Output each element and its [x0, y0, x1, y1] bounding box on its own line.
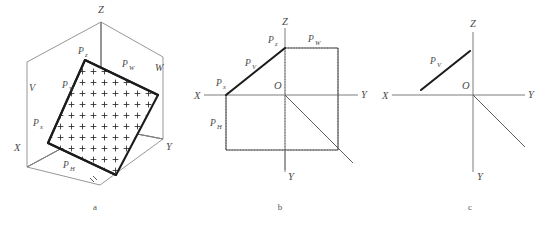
axis-label-x: X [13, 142, 21, 153]
construction-lines-b [226, 48, 338, 150]
trace-label-ph-sub: H [216, 123, 223, 130]
trace-label-pz-sub: z [84, 51, 88, 58]
panel-caption-a: a [93, 202, 97, 212]
edge-tick-marks [90, 176, 97, 182]
trace-label-pz: P z [267, 35, 278, 47]
plane-label-w: W [155, 62, 165, 73]
trace-label-px: P x [215, 78, 226, 90]
axis-label-z: Z [98, 4, 104, 15]
y-axis-bisector-line [473, 95, 525, 147]
trace-label-ph: P H [209, 118, 223, 130]
axis-label-y-bottom: Y [477, 171, 484, 182]
trace-label-pz-sub: z [274, 40, 278, 47]
trace-label-pv-sub: V [437, 61, 442, 68]
trace-label-pv-base: P [244, 58, 251, 68]
axis-label-y-right: Y [361, 89, 368, 100]
trace-lines-b [226, 48, 338, 150]
y-axis-bisector-line [285, 95, 353, 163]
trace-label-ph-base: P [62, 160, 69, 170]
trace-label-px-sub: x [222, 83, 226, 90]
origin-label-c: O [462, 80, 470, 91]
panel-caption-c: c [468, 202, 472, 212]
trace-label-ph-sub: H [69, 165, 76, 172]
trace-label-ph-base: P [209, 118, 216, 128]
trace-label-px-sub: x [39, 123, 43, 130]
trace-label-pz-base: P [77, 46, 84, 56]
trace-label-pz: P z [77, 46, 88, 58]
axis-label-z: Z [470, 18, 476, 29]
trace-label-pw: P W [307, 34, 321, 46]
panel-caption-b: b [278, 202, 283, 212]
trace-label-px: P x [32, 118, 43, 130]
figure-root: Z X Y V W P z P V P W P x P H a [0, 0, 549, 229]
axis-label-x: X [381, 90, 389, 101]
trace-label-pw-base: P [307, 34, 314, 44]
trace-label-pw-sub: W [315, 39, 321, 46]
trace-label-pv: P V [429, 56, 442, 68]
axis-lines-b [204, 28, 358, 170]
trace-label-pw: P W [121, 59, 135, 71]
trace-label-pv: P V [244, 58, 257, 70]
plane-label-v: V [29, 82, 37, 93]
axis-label-x: X [193, 90, 201, 101]
axis-label-y-bottom: Y [288, 171, 295, 182]
axis-label-z: Z [282, 16, 288, 27]
panel-b-unfolded: Z X Y Y O P z P W P V P x P H b [190, 0, 370, 229]
trace-label-ph: P H [62, 160, 76, 172]
origin-label-b: O [274, 80, 282, 91]
trace-label-pw-sub: W [129, 64, 135, 71]
trace-label-pw-base: P [121, 59, 128, 69]
trace-label-pv: P V [61, 80, 74, 92]
trace-label-pv-base: P [61, 80, 68, 90]
trace-label-pz-base: P [267, 35, 274, 45]
trace-label-px-base: P [32, 118, 39, 128]
panel-c-simplified: Z X Y Y O P V c [370, 0, 549, 229]
trace-label-pv-base: P [429, 56, 436, 66]
axis-lines-c [392, 32, 525, 172]
trace-label-px-base: P [215, 78, 222, 88]
trace-label-pv-sub: V [252, 63, 257, 70]
axis-label-y-right: Y [528, 89, 535, 100]
panel-a-axonometric: Z X Y V W P z P V P W P x P H a [0, 0, 190, 229]
axis-label-y: Y [166, 141, 173, 152]
